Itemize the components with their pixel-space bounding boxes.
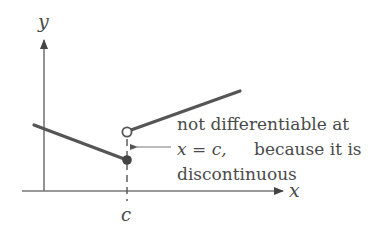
- annotation-line-2-text: because it is: [254, 139, 362, 159]
- y-axis-label: y: [37, 10, 49, 32]
- annotation-line-2-math: x = c,: [177, 139, 227, 159]
- annotation-line-3: discontinuous: [177, 164, 297, 184]
- discontinuity-diagram: y x c not differentiable at x = c, becau…: [0, 0, 383, 236]
- annotation-line-1: not differentiable at: [177, 114, 349, 134]
- open-point: [122, 127, 131, 136]
- c-tick-label: c: [121, 204, 131, 225]
- left-curve-segment: [34, 125, 127, 160]
- filled-point: [122, 155, 132, 165]
